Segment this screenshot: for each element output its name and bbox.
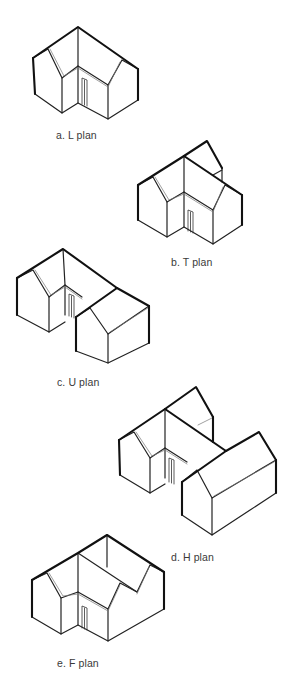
roof-outline: [184, 141, 222, 168]
wall-edge: [49, 322, 65, 332]
fascia-line: [198, 418, 212, 425]
caption-f-plan: e. F plan: [57, 657, 99, 669]
caption-h-plan: d. H plan: [171, 551, 214, 563]
house-t-plan: [138, 141, 242, 244]
house-f-plan: [32, 535, 164, 641]
house-l-plan: [33, 27, 138, 119]
wall-edge: [32, 609, 164, 641]
wall-edge: [182, 493, 276, 535]
roof-outline: [32, 535, 164, 580]
wall-edge: [35, 94, 138, 119]
roof-outline: [119, 409, 276, 460]
wall-edge: [63, 249, 65, 285]
caption-t-plan: b. T plan: [171, 256, 212, 268]
roof-outline: [33, 58, 35, 94]
wall-edge: [138, 220, 242, 244]
fascia-line: [110, 308, 148, 332]
house-h-plan: [119, 387, 276, 535]
wall-edge: [17, 297, 49, 332]
caption-l-plan: a. L plan: [56, 129, 97, 141]
roof-outline: [33, 27, 138, 69]
roof-outline: [119, 440, 120, 475]
wall-edge: [182, 460, 276, 498]
roof-outline: [76, 288, 117, 317]
roof-outline: [165, 387, 213, 417]
house-u-plan: [17, 249, 149, 363]
isometric-drawings: [0, 0, 287, 680]
house-plans-diagram: ​ a. L plan b. T plan c. U plan d. H pla…: [0, 0, 287, 680]
roof-outline: [138, 156, 242, 195]
wall-edge: [138, 177, 242, 210]
roof-outline: [182, 451, 226, 482]
wall-edge: [213, 170, 222, 175]
fascia-line: [214, 462, 274, 496]
wall-edge: [120, 458, 150, 493]
fascia-line: [137, 567, 149, 594]
wall-edge: [32, 565, 164, 609]
wall-edge: [150, 484, 165, 493]
caption-u-plan: c. U plan: [57, 376, 99, 388]
wall-edge: [76, 343, 149, 363]
